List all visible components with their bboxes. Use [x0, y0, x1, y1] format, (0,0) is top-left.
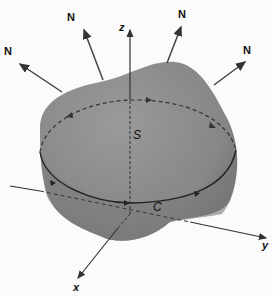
x-axis-label: x — [73, 281, 79, 293]
stokes-diagram: N N N N z S C y x — [0, 0, 273, 296]
normal-label: N — [178, 8, 186, 20]
surface-label: S — [133, 128, 141, 142]
normal-label: N — [4, 45, 12, 57]
y-axis — [190, 222, 266, 238]
normal-vector-4 — [214, 62, 245, 85]
x-axis — [78, 228, 118, 278]
normal-vector-1 — [20, 64, 62, 92]
z-axis-label: z — [119, 21, 125, 33]
normal-vector-2 — [84, 30, 103, 80]
normal-vector-3 — [167, 27, 181, 63]
normal-label: N — [243, 44, 251, 56]
y-axis-label: y — [262, 239, 268, 251]
curve-label: C — [153, 200, 162, 214]
diagram-canvas — [0, 0, 273, 296]
normal-label: N — [67, 11, 75, 23]
y-axis-back — [10, 186, 40, 191]
